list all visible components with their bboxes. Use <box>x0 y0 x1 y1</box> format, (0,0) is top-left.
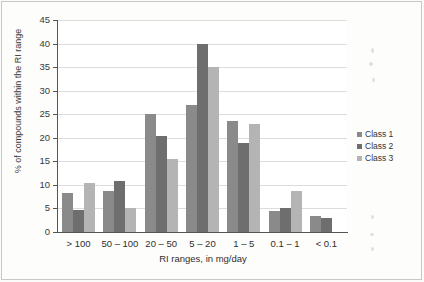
y-tick-label: 45 <box>22 15 50 25</box>
bar-group <box>99 20 140 232</box>
x-tick-label: > 100 <box>58 238 99 249</box>
bar-class-2 <box>114 181 125 232</box>
y-tick-mark <box>53 67 58 68</box>
bar-class-3 <box>291 191 302 232</box>
bar-class-1 <box>227 121 238 232</box>
bar-class-2 <box>197 44 208 232</box>
y-tick-label: 5 <box>22 203 50 213</box>
bar-class-3 <box>125 208 136 232</box>
legend-swatch-icon <box>357 144 362 149</box>
bar-class-3 <box>167 159 178 232</box>
y-tick-mark <box>53 91 58 92</box>
scan-speckle <box>370 233 374 236</box>
bar-class-1 <box>269 211 280 232</box>
bar-class-1 <box>62 193 73 232</box>
bar-class-2 <box>156 136 167 232</box>
bar-class-3 <box>249 124 260 232</box>
x-axis-line <box>58 232 348 233</box>
bar-class-3 <box>208 67 219 232</box>
x-tick-label: 5 – 20 <box>182 238 223 249</box>
y-tick-mark <box>53 114 58 115</box>
bar-class-2 <box>238 143 249 233</box>
bar-group <box>58 20 99 232</box>
y-tick-label: 10 <box>22 180 50 190</box>
bar-class-3 <box>84 183 95 232</box>
plot-area <box>58 20 347 232</box>
scan-speckle <box>369 62 373 66</box>
bar-class-1 <box>186 105 197 232</box>
legend-label: Class 2 <box>365 142 393 151</box>
y-tick-mark <box>53 208 58 209</box>
bar-group <box>306 20 347 232</box>
x-tick-label: 50 – 100 <box>99 238 140 249</box>
legend-item-class-3[interactable]: Class 3 <box>357 152 393 164</box>
x-tick-label: 0.1 – 1 <box>264 238 305 249</box>
y-tick-label: 40 <box>22 39 50 49</box>
bar-class-1 <box>103 191 114 232</box>
bar-group <box>264 20 305 232</box>
bar-group <box>141 20 182 232</box>
bar-class-2 <box>280 208 291 232</box>
x-tick-label: 1 – 5 <box>223 238 264 249</box>
bar-class-2 <box>73 210 84 232</box>
scan-speckle <box>371 247 374 251</box>
y-tick-mark <box>53 138 58 139</box>
y-tick-label: 0 <box>22 227 50 237</box>
legend-swatch-icon <box>357 132 362 137</box>
legend-item-class-1[interactable]: Class 1 <box>357 128 393 140</box>
y-tick-label: 30 <box>22 86 50 96</box>
bar-class-1 <box>310 216 321 232</box>
legend-label: Class 1 <box>365 130 393 139</box>
scan-speckle <box>371 215 374 219</box>
scan-speckle <box>372 78 375 82</box>
legend-item-class-2[interactable]: Class 2 <box>357 140 393 152</box>
y-tick-label: 25 <box>22 109 50 119</box>
y-tick-label: 20 <box>22 133 50 143</box>
y-tick-mark <box>53 161 58 162</box>
bar-class-2 <box>321 218 332 232</box>
y-tick-label: 35 <box>22 62 50 72</box>
x-axis-title: RI ranges, in mg/day <box>58 253 348 264</box>
y-tick-mark <box>53 44 58 45</box>
chart-screenshot: % of compounds within the RI range 05101… <box>0 0 424 282</box>
y-tick-mark <box>53 185 58 186</box>
legend-swatch-icon <box>357 156 362 161</box>
bar-group <box>223 20 264 232</box>
bar-group <box>182 20 223 232</box>
scan-speckle <box>371 48 374 53</box>
y-tick-mark <box>53 232 58 233</box>
x-tick-label: 20 – 50 <box>141 238 182 249</box>
y-tick-label: 15 <box>22 156 50 166</box>
legend-label: Class 3 <box>365 154 393 163</box>
y-tick-mark <box>53 20 58 21</box>
chart-legend: Class 1Class 2Class 3 <box>357 128 393 164</box>
bar-class-1 <box>145 114 156 232</box>
x-tick-label: < 0.1 <box>306 238 347 249</box>
